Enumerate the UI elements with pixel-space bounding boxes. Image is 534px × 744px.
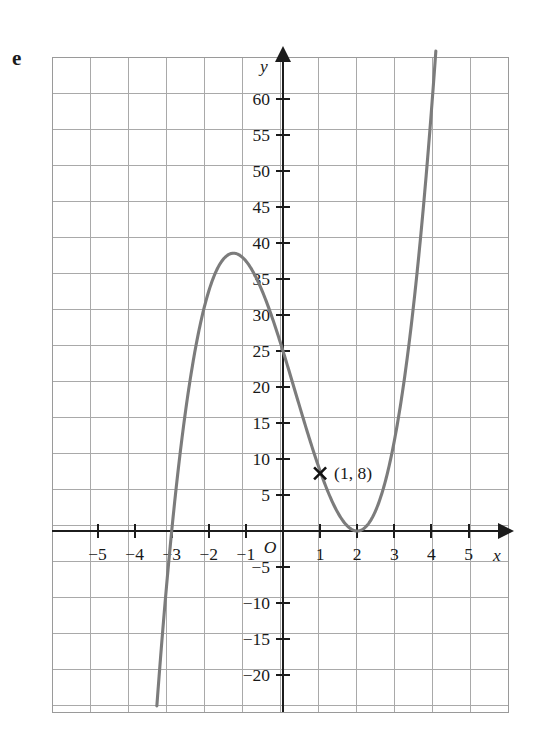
y-axis-tick-label: 55 bbox=[253, 125, 271, 145]
grid-lines bbox=[52, 57, 508, 712]
graph-figure: −5−4−3−2−11234560555045403530252015105−5… bbox=[0, 0, 534, 744]
y-axis-tick-label: 25 bbox=[253, 341, 271, 361]
y-axis-tick-label: 10 bbox=[253, 449, 271, 469]
y-axis-tick-label: −15 bbox=[243, 629, 271, 649]
y-axis-arrow bbox=[275, 46, 291, 62]
y-axis-tick-label: 15 bbox=[253, 413, 271, 433]
x-axis-tick-label: −4 bbox=[125, 544, 144, 564]
y-axis-tick-label: −10 bbox=[243, 593, 271, 613]
y-axis-tick-label: −20 bbox=[243, 665, 271, 685]
x-axis-tick-label: −2 bbox=[199, 544, 218, 564]
y-axis-tick-label: 40 bbox=[253, 233, 271, 253]
figure-page: e −5−4−3−2−11234560555045403530252015105… bbox=[0, 0, 534, 744]
y-axis-name-label: y bbox=[258, 56, 268, 76]
x-axis-tick-label: −3 bbox=[162, 544, 181, 564]
y-axis-tick-label: 50 bbox=[253, 161, 271, 181]
x-axis-tick-label: 5 bbox=[464, 544, 473, 564]
x-axis-tick-label: 4 bbox=[427, 544, 436, 564]
origin-label: O bbox=[264, 537, 277, 557]
y-axis-tick-label: −5 bbox=[251, 557, 270, 577]
axes bbox=[52, 46, 514, 712]
y-axis-tick-label: 5 bbox=[261, 485, 270, 505]
x-axis-tick-label: 1 bbox=[316, 544, 325, 564]
y-axis-tick-label: 45 bbox=[253, 197, 271, 217]
x-axis-tick-label: 3 bbox=[390, 544, 399, 564]
x-axis-name-label: x bbox=[492, 545, 501, 565]
y-axis-tick-label: 60 bbox=[253, 89, 271, 109]
x-axis-tick-label: −5 bbox=[88, 544, 107, 564]
y-axis-tick-label: 20 bbox=[253, 377, 271, 397]
annotated-point-label: (1, 8) bbox=[334, 463, 372, 483]
coordinate-graph: −5−4−3−2−11234560555045403530252015105−5… bbox=[0, 0, 534, 744]
x-axis-tick-label: 2 bbox=[353, 544, 362, 564]
